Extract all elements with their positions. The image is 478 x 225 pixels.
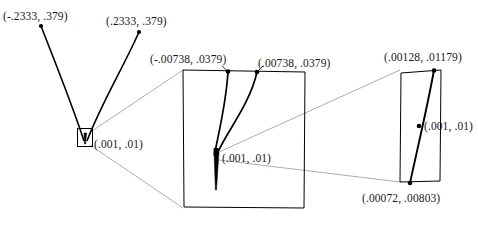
zoom2-point-center <box>417 124 422 129</box>
connector-right-upper <box>219 70 400 152</box>
zoom1-box <box>183 70 305 208</box>
label-overview-right: (.2333, .379) <box>106 15 167 27</box>
zoom2-point-top <box>432 68 437 73</box>
zoom1-point-center <box>214 148 219 156</box>
overview-point-left <box>39 24 43 28</box>
zoom1-curve-left <box>215 72 228 152</box>
overview-curve-right <box>87 32 139 141</box>
zoom-sequence-figure: (-.2333, .379) (.2333, .379) (.001, .01)… <box>0 0 478 225</box>
label-zoom2-bottom: (.00072, .00803) <box>362 192 440 204</box>
zoom1-curves <box>215 72 257 152</box>
overview-curve-left <box>41 26 84 141</box>
overview-curves <box>41 26 139 141</box>
label-zoom1-left: (-.00738, .0379) <box>150 53 226 65</box>
zoom1-curve-right <box>218 72 257 152</box>
label-zoom1-center: (.001, .01) <box>222 152 271 164</box>
label-zoom1-right: (.00738, .0379) <box>258 57 330 69</box>
label-overview-left: (-.2333, .379) <box>3 10 68 22</box>
zoom2-point-bottom <box>408 181 413 186</box>
label-zoom2-top: (.00128, .01179) <box>384 51 462 63</box>
label-overview-center: (.001, .01) <box>94 138 143 150</box>
overview-point-right <box>137 30 141 34</box>
label-zoom2-center: (.001, .01) <box>424 120 473 132</box>
overview-curve-tip <box>84 133 87 144</box>
zoom1-curve-tip <box>214 152 219 190</box>
connector-left-lower <box>90 145 183 208</box>
